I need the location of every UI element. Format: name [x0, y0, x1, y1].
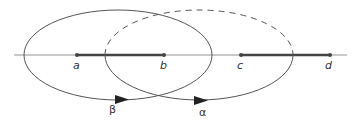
- contour-diagram: a b c d β α: [0, 0, 360, 125]
- label-c: c: [237, 59, 243, 72]
- point-d: [328, 53, 332, 57]
- label-alpha: α: [199, 106, 206, 119]
- label-a: a: [73, 59, 80, 72]
- point-a: [75, 53, 79, 57]
- beta-arrow-icon: [115, 95, 129, 104]
- label-beta: β: [109, 103, 116, 116]
- alpha-arrow-icon: [194, 96, 208, 105]
- point-c: [239, 53, 243, 57]
- label-d: d: [325, 59, 333, 72]
- label-b: b: [160, 59, 167, 72]
- point-b: [162, 53, 166, 57]
